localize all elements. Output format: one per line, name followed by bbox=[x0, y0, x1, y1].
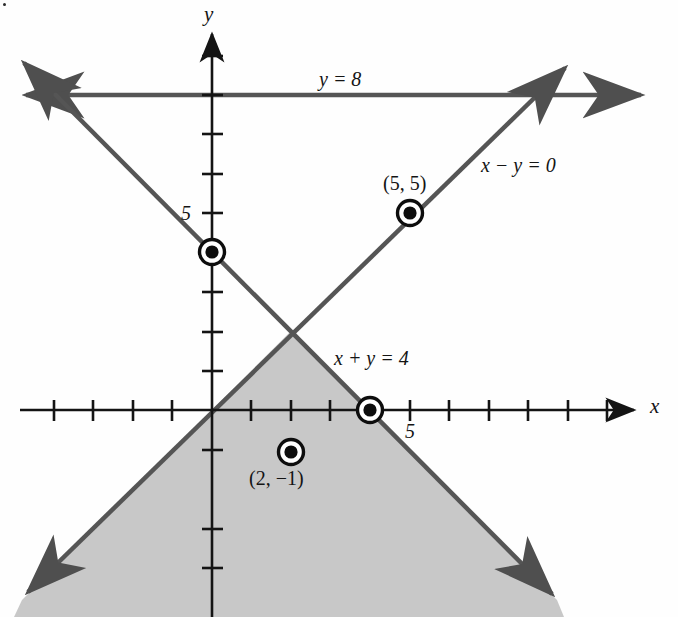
point-marker-2-minus1 bbox=[279, 440, 304, 465]
point-label-5-5: (5, 5) bbox=[383, 173, 426, 193]
equation-label-x-plus-y-4: x + y = 4 bbox=[334, 348, 409, 368]
x-axis-label: x bbox=[650, 396, 659, 417]
point-marker-5-5 bbox=[398, 201, 423, 226]
point-marker-4-0 bbox=[358, 398, 383, 423]
y-tick-label-5: 5 bbox=[181, 203, 191, 223]
coordinate-plane bbox=[0, 0, 678, 617]
point-label-2-minus-1: (2, −1) bbox=[249, 468, 304, 488]
y-axis-label: y bbox=[204, 4, 213, 25]
y-axis bbox=[202, 34, 223, 617]
math-graph-figure: y x 5 5 y = 8 x + y = 4 x − y = 0 (5, 5)… bbox=[0, 0, 678, 617]
point-marker-0-4 bbox=[200, 240, 225, 265]
equation-label-y-8: y = 8 bbox=[319, 69, 361, 89]
x-tick-label-5: 5 bbox=[405, 421, 415, 441]
equation-label-x-minus-y-0: x − y = 0 bbox=[481, 155, 556, 175]
